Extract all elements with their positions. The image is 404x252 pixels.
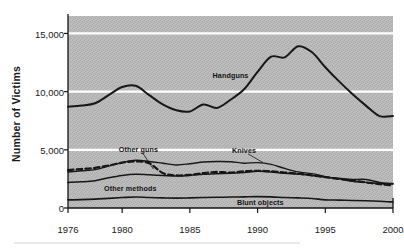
y-tick-label: 15,000 bbox=[20, 28, 64, 39]
y-tick-label: 10,000 bbox=[20, 86, 64, 97]
series-label-knives: Knives bbox=[232, 145, 256, 154]
series-label-other-methods: Other methods bbox=[104, 183, 156, 192]
x-tick-label: 1990 bbox=[247, 224, 268, 235]
x-tick-label: 1985 bbox=[179, 224, 200, 235]
y-tick-label: 0 bbox=[20, 203, 64, 214]
y-axis-tick-labels: 05,00010,00015,000 bbox=[18, 0, 64, 252]
series-label-handguns: Handguns bbox=[213, 71, 249, 80]
y-tick-label: 5,000 bbox=[20, 144, 64, 155]
x-tick-label: 2000 bbox=[382, 224, 403, 235]
series-label-other-guns: Other guns bbox=[119, 144, 158, 153]
x-tick-label: 1980 bbox=[112, 224, 133, 235]
x-tick-label: 1976 bbox=[57, 224, 78, 235]
series-label-blunt-objects: Blunt objects bbox=[237, 198, 284, 207]
x-tick-label: 1995 bbox=[315, 224, 336, 235]
